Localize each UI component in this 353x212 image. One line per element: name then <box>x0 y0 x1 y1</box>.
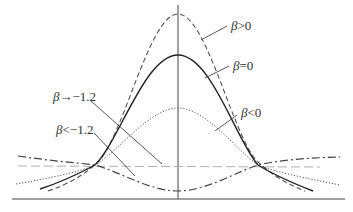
label-beta-positive: β>0 <box>230 18 251 33</box>
curve-beta-limit <box>18 166 320 167</box>
leader-beta-limit <box>91 101 162 164</box>
leader-beta-below-limit <box>94 133 135 176</box>
label-beta-negative: β<0 <box>240 105 261 120</box>
kurtosis-density-chart: β>0 β=0 β<0 β→−1.2 β<−1.2 <box>0 0 353 212</box>
label-beta-zero: β=0 <box>232 58 253 73</box>
label-beta-limit: β→−1.2 <box>52 89 96 104</box>
leader-beta-positive <box>201 26 227 40</box>
label-beta-below-limit: β<−1.2 <box>55 122 93 137</box>
leader-beta-zero <box>205 66 229 78</box>
